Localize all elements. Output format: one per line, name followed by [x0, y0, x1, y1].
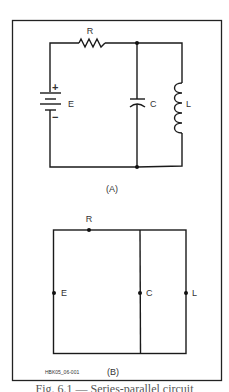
- label-b-c: C: [146, 288, 153, 298]
- junction-dot-bottom: [135, 165, 139, 169]
- wire-left-bottom: [50, 110, 138, 167]
- outer-frame: [13, 21, 222, 381]
- label-l: L: [186, 99, 191, 109]
- wire-top-right: [105, 43, 182, 83]
- node-r: [87, 228, 91, 232]
- label-b-r: R: [86, 214, 93, 224]
- battery-symbol: [40, 93, 61, 110]
- label-b-e: E: [61, 288, 67, 298]
- graph-outline: [54, 230, 187, 354]
- node-c: [138, 291, 142, 295]
- node-e: [52, 291, 56, 295]
- label-minus: −: [52, 111, 58, 123]
- caption-b: (B): [107, 367, 119, 377]
- label-e: E: [68, 99, 74, 109]
- diagram-b: R E C L (B): [52, 214, 197, 377]
- junction-dot-top: [135, 41, 139, 45]
- figure-id: HBK05_06-001: [45, 369, 79, 375]
- wire-right-bottom: [137, 133, 182, 167]
- label-c: C: [150, 99, 157, 109]
- label-r: R: [87, 26, 94, 36]
- resistor-symbol: [79, 39, 105, 47]
- node-l: [184, 291, 188, 295]
- label-b-l: L: [192, 288, 197, 298]
- diagram-a: R + − E C L (A): [40, 26, 191, 194]
- caption-a: (A): [106, 184, 118, 194]
- cutoff-caption: Fig. 6.1 — Series-parallel circuit: [0, 383, 229, 392]
- label-plus: +: [52, 81, 58, 93]
- figure-canvas: R + − E C L (A) R E C L (B) HBK05_06-001: [0, 0, 229, 392]
- inductor-symbol: [175, 83, 183, 133]
